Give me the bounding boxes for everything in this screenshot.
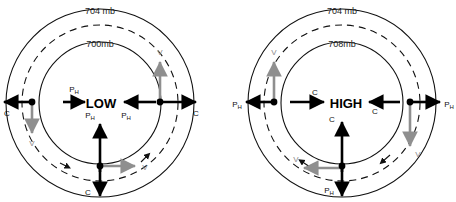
force-node-left <box>29 99 36 106</box>
force-label-c-lower-right: C <box>372 107 378 116</box>
force-node-right <box>157 99 164 106</box>
coriolis-label-right: C <box>193 109 199 118</box>
flow-arrow-left <box>60 163 68 167</box>
coriolis-label-bottom: C <box>85 188 91 197</box>
velocity-label-right: V <box>157 48 163 57</box>
center-label-low: LOW <box>86 96 117 111</box>
flow-arrow-left <box>301 161 310 167</box>
isobar-label-outer: 704 mb <box>85 6 115 16</box>
force-label-ph-lower-left: PH <box>85 111 95 121</box>
force-label-c-upper-left: C <box>312 88 318 97</box>
force-label-ph-upper-left: PH <box>69 85 79 95</box>
pressure-label-bottom: PH <box>324 186 334 196</box>
isobar-label-inner: 708mb <box>328 39 356 49</box>
force-node-bottom <box>339 163 346 170</box>
pressure-label-right: PH <box>444 100 454 110</box>
flow-arrow-right <box>382 155 390 162</box>
isobar-label-outer: 704 mb <box>327 6 357 16</box>
force-node-right <box>407 99 414 106</box>
force-label-c-below: C <box>329 115 335 124</box>
velocity-label-right: V <box>415 150 421 159</box>
coriolis-label-left: C <box>4 109 10 118</box>
force-node-left <box>271 99 278 106</box>
force-label-ph-lower-right: PH <box>121 111 131 121</box>
diagram-high-pressure: 704 mb 708mb HIGH C C C PH V PH V <box>228 0 456 202</box>
center-label-high: HIGH <box>330 96 363 111</box>
velocity-label-left: V <box>271 48 277 57</box>
velocity-label-bottom: V <box>142 163 148 172</box>
isobar-label-inner: 700mb <box>86 39 114 49</box>
velocity-label-left: V <box>29 139 35 148</box>
diagram-low-pressure: 704 mb 700mb LOW PH PH PH C V C V <box>0 0 228 202</box>
pressure-label-left: PH <box>232 100 242 110</box>
flow-arrow-right <box>141 155 148 162</box>
figure-canvas: 704 mb 700mb LOW PH PH PH C V C V <box>0 0 456 202</box>
force-node-bottom <box>97 163 104 170</box>
velocity-label-bottom: V <box>293 155 299 164</box>
